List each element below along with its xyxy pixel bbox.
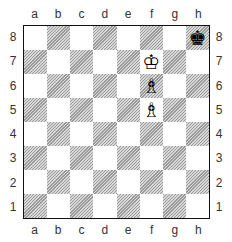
rank-label-1: 1 [212,195,226,219]
square-c3[interactable] [70,146,93,170]
file-label-h: h [187,7,210,21]
file-label-b: b [46,223,69,237]
rank-label-2: 2 [6,171,20,195]
square-c7[interactable] [70,50,93,74]
square-d8[interactable] [93,26,116,50]
square-g3[interactable] [163,146,186,170]
white-bishop-icon[interactable]: ♗ [142,76,160,96]
square-c6[interactable] [70,74,93,98]
square-h7[interactable] [186,50,209,74]
square-d3[interactable] [93,146,116,170]
square-c5[interactable] [70,98,93,122]
square-g8[interactable] [163,26,186,50]
square-f2[interactable] [140,170,163,194]
black-king-icon[interactable]: ♚ [188,28,206,48]
square-e8[interactable] [117,26,140,50]
square-a4[interactable] [24,122,47,146]
square-c4[interactable] [70,122,93,146]
square-b6[interactable] [47,74,70,98]
square-e4[interactable] [117,122,140,146]
square-e3[interactable] [117,146,140,170]
file-label-d: d [93,223,116,237]
rank-label-4: 4 [6,122,20,146]
square-b5[interactable] [47,98,70,122]
square-f3[interactable] [140,146,163,170]
file-label-f: f [140,7,163,21]
file-label-f: f [140,223,163,237]
rank-label-3: 3 [6,146,20,170]
square-h3[interactable] [186,146,209,170]
square-a3[interactable] [24,146,47,170]
square-g6[interactable] [163,74,186,98]
square-c2[interactable] [70,170,93,194]
square-b4[interactable] [47,122,70,146]
square-d2[interactable] [93,170,116,194]
file-label-a: a [23,7,46,21]
square-c1[interactable] [70,194,93,218]
file-label-a: a [23,223,46,237]
square-e1[interactable] [117,194,140,218]
square-g2[interactable] [163,170,186,194]
square-g4[interactable] [163,122,186,146]
square-b8[interactable] [47,26,70,50]
white-bishop-icon[interactable]: ♗ [142,100,160,120]
square-b1[interactable] [47,194,70,218]
rank-label-6: 6 [212,74,226,98]
square-h2[interactable] [186,170,209,194]
square-b2[interactable] [47,170,70,194]
file-label-d: d [93,7,116,21]
file-label-b: b [46,7,69,21]
file-label-c: c [70,7,93,21]
square-a2[interactable] [24,170,47,194]
square-f6[interactable]: ♗ [140,74,163,98]
rank-label-8: 8 [6,25,20,49]
file-label-c: c [70,223,93,237]
file-label-g: g [163,7,186,21]
rank-label-7: 7 [212,49,226,73]
rank-label-1: 1 [6,195,20,219]
square-h1[interactable] [186,194,209,218]
square-f8[interactable] [140,26,163,50]
rank-label-4: 4 [212,122,226,146]
square-d7[interactable] [93,50,116,74]
square-g1[interactable] [163,194,186,218]
rank-label-2: 2 [212,171,226,195]
square-e5[interactable] [117,98,140,122]
rank-label-8: 8 [212,25,226,49]
square-e7[interactable] [117,50,140,74]
square-d1[interactable] [93,194,116,218]
square-a6[interactable] [24,74,47,98]
square-c8[interactable] [70,26,93,50]
square-f7[interactable]: ♔ [140,50,163,74]
white-king-icon[interactable]: ♔ [142,52,160,72]
square-h4[interactable] [186,122,209,146]
square-f4[interactable] [140,122,163,146]
square-e2[interactable] [117,170,140,194]
square-a7[interactable] [24,50,47,74]
square-e6[interactable] [117,74,140,98]
square-b7[interactable] [47,50,70,74]
square-f1[interactable] [140,194,163,218]
square-g7[interactable] [163,50,186,74]
square-h5[interactable] [186,98,209,122]
file-label-h: h [187,223,210,237]
rank-label-7: 7 [6,49,20,73]
square-a1[interactable] [24,194,47,218]
square-b3[interactable] [47,146,70,170]
file-label-e: e [117,223,140,237]
rank-label-6: 6 [6,74,20,98]
square-a8[interactable] [24,26,47,50]
square-h8[interactable]: ♚ [186,26,209,50]
square-d4[interactable] [93,122,116,146]
chess-board: ♚♔♗♗ [23,25,210,219]
square-d5[interactable] [93,98,116,122]
square-f5[interactable]: ♗ [140,98,163,122]
rank-label-3: 3 [212,146,226,170]
square-d6[interactable] [93,74,116,98]
square-h6[interactable] [186,74,209,98]
file-label-g: g [163,223,186,237]
rank-label-5: 5 [212,98,226,122]
square-g5[interactable] [163,98,186,122]
square-a5[interactable] [24,98,47,122]
file-label-e: e [117,7,140,21]
